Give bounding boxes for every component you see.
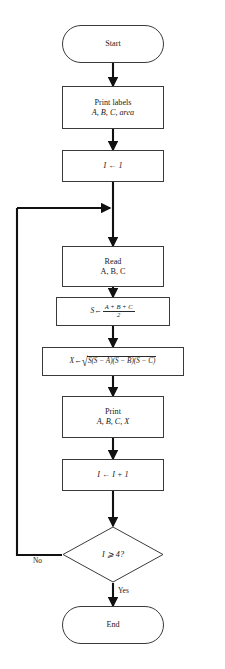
node-start[interactable]: Start xyxy=(62,25,164,63)
semiperimeter-numerator: A + B + C xyxy=(103,304,135,311)
node-semiperimeter[interactable]: S←A + B + C2 xyxy=(56,297,170,326)
node-decision-label: I ⩾ 4? xyxy=(102,550,124,560)
edge-label-no: No xyxy=(32,556,43,565)
node-print-values-line2: A, B, C, X xyxy=(97,417,130,427)
area-sqrt: √S(S − A)(S − B)(S − C) xyxy=(82,356,157,367)
edge-label-yes: Yes xyxy=(117,586,130,595)
node-init-i-label: I ← 1 xyxy=(103,161,122,171)
node-print-labels[interactable]: Print labels A, B, C, area xyxy=(62,86,164,129)
area-radicand: S(S − A)(S − B)(S − C) xyxy=(87,356,157,367)
connector-group xyxy=(17,63,113,606)
node-read-line1: Read xyxy=(105,257,122,267)
node-decision[interactable]: I ⩾ 4? xyxy=(62,526,164,583)
node-start-label: Start xyxy=(105,39,120,49)
semiperimeter-assign-arrow: ← xyxy=(94,306,102,315)
node-area-formula[interactable]: X←√S(S − A)(S − B)(S − C) xyxy=(42,347,184,376)
node-print-labels-line2: A, B, C, area xyxy=(92,108,134,118)
node-area-formula-text: X←√S(S − A)(S − B)(S − C) xyxy=(70,356,157,367)
semiperimeter-fraction: A + B + C2 xyxy=(103,304,135,319)
node-increment-i-label: I ← I + 1 xyxy=(97,470,128,480)
semiperimeter-denominator: 2 xyxy=(103,311,135,319)
loop-back-path xyxy=(17,208,62,555)
node-semiperimeter-formula: S←A + B + C2 xyxy=(90,304,135,319)
node-end-label: End xyxy=(106,620,119,630)
node-print-values[interactable]: Print A, B, C, X xyxy=(62,396,164,438)
node-read[interactable]: Read A, B, C xyxy=(62,246,164,287)
node-print-values-line1: Print xyxy=(105,407,121,417)
node-print-labels-line1: Print labels xyxy=(94,98,131,108)
node-init-i[interactable]: I ← 1 xyxy=(62,150,164,182)
node-increment-i[interactable]: I ← I + 1 xyxy=(62,459,164,491)
radical-sign-icon: √ xyxy=(82,355,88,369)
area-assign-arrow: ← xyxy=(74,356,82,365)
node-read-line2: A, B, C xyxy=(100,267,125,277)
node-end[interactable]: End xyxy=(62,606,164,644)
